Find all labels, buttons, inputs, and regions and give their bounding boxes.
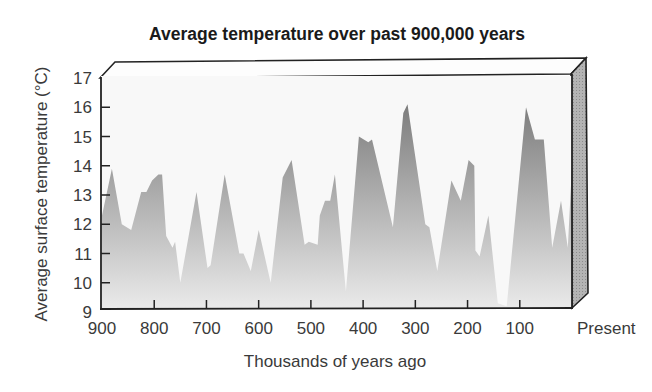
y-axis-label: Average surface temperature (°C) <box>32 67 51 322</box>
x-tick-label: 600 <box>244 319 272 338</box>
box-top-face <box>100 58 586 78</box>
x-tick-label: 900 <box>88 319 116 338</box>
x-tick-label: 500 <box>297 319 325 338</box>
y-tick-label: 14 <box>73 157 92 176</box>
y-tick-label: 10 <box>73 274 92 293</box>
box-side-face <box>571 58 588 308</box>
y-tick-label: 11 <box>74 245 92 264</box>
y-tick-label: 15 <box>73 128 92 147</box>
x-tick-label: Present <box>577 319 636 338</box>
chart: Average temperature over past 900,000 ye… <box>0 0 652 392</box>
y-tick-label: 13 <box>73 186 92 205</box>
y-tick-label: 16 <box>73 98 92 117</box>
y-tick-label: 12 <box>73 215 92 234</box>
chart-title: Average temperature over past 900,000 ye… <box>149 24 525 44</box>
x-tick-label: 300 <box>401 319 429 338</box>
x-tick-label: 100 <box>506 319 534 338</box>
chart-canvas: Average temperature over past 900,000 ye… <box>0 0 652 392</box>
x-tick-label: 400 <box>349 319 377 338</box>
x-tick-label: 200 <box>453 319 481 338</box>
x-axis-label: Thousands of years ago <box>244 352 426 371</box>
y-tick-label: 17 <box>73 69 92 88</box>
x-tick-label: 700 <box>192 319 220 338</box>
x-tick-label: 800 <box>140 319 168 338</box>
x-axis-line <box>100 308 573 309</box>
